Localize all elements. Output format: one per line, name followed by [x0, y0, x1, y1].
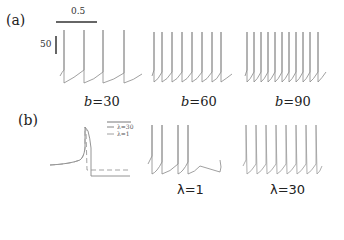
caption-b90: b=90 [275, 94, 311, 109]
caption-lambda1: λ=1 [177, 182, 204, 197]
legend-label-lambda1: λ=1 [117, 130, 130, 137]
trace-lambda30 [243, 125, 322, 174]
trace-b30 [60, 30, 142, 83]
caption-b60-value: =60 [189, 94, 216, 109]
legend-label-lambda30: λ=30 [117, 123, 133, 130]
trace-b60 [152, 32, 232, 82]
caption-b30-value: =30 [92, 94, 119, 109]
caption-b60: b=60 [181, 94, 217, 109]
caption-lambda30: λ=30 [270, 182, 305, 197]
trace-b90 [245, 32, 326, 82]
caption-b30: b=30 [84, 94, 120, 109]
caption-b90-value: =90 [283, 94, 310, 109]
trace-lambda1 [148, 125, 221, 174]
